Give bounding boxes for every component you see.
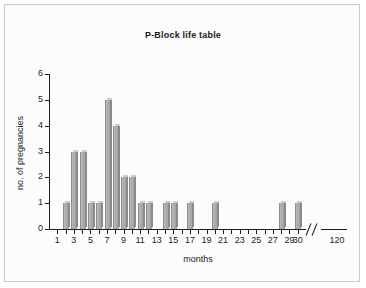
x-tick (66, 230, 67, 234)
y-tick-label: 3 (30, 146, 43, 156)
bar-top (148, 201, 153, 203)
x-tick-label: 3 (71, 235, 76, 245)
bar-top (123, 175, 128, 177)
bar-top (90, 201, 95, 203)
bar-top (98, 201, 103, 203)
bar-side (110, 98, 112, 227)
x-tick-label: 17 (185, 235, 195, 245)
y-tick (45, 100, 49, 101)
x-tick (281, 230, 282, 234)
bar (71, 152, 76, 230)
y-axis-label: no. of pregnancies (15, 116, 25, 190)
bar (279, 203, 284, 229)
bar-top (73, 150, 78, 152)
x-tick (157, 230, 158, 234)
x-tick (298, 230, 299, 234)
y-tick (45, 177, 49, 178)
y-axis-line (49, 74, 50, 230)
bar-side (143, 201, 145, 227)
bar-side (168, 201, 170, 227)
bar (129, 177, 134, 229)
bar-top (297, 201, 302, 203)
x-tick (148, 230, 149, 234)
bar (121, 177, 126, 229)
figure-frame: P-Block life table no. of pregnancies mo… (4, 4, 360, 282)
x-tick (198, 230, 199, 234)
x-tick (165, 230, 166, 234)
x-tick-label: 9 (121, 235, 126, 245)
x-tick (240, 230, 241, 234)
bar-side (126, 175, 128, 227)
bar-top (165, 201, 170, 203)
x-tick (132, 230, 133, 234)
y-tick-label: 4 (30, 120, 43, 130)
x-tick-label: 15 (168, 235, 178, 245)
bar (171, 203, 176, 229)
bar (113, 126, 118, 229)
bar (212, 203, 217, 229)
bar-side (85, 150, 87, 228)
y-tick (45, 152, 49, 153)
x-axis-label: months (49, 254, 347, 264)
y-tick (45, 229, 49, 230)
bar (80, 152, 85, 230)
x-tick (99, 230, 100, 234)
x-tick (124, 230, 125, 234)
chart-title: P-Block life table (5, 30, 361, 40)
bar (163, 203, 168, 229)
x-tick (115, 230, 116, 234)
bar (295, 203, 300, 229)
bar-top (82, 150, 87, 152)
bar-side (151, 201, 153, 227)
x-tick (74, 230, 75, 234)
bar-side (192, 201, 194, 227)
x-tick-label: 21 (218, 235, 228, 245)
bar-top (189, 201, 194, 203)
bar (96, 203, 101, 229)
x-tick-label: 25 (251, 235, 261, 245)
x-tick-label: 11 (136, 235, 145, 245)
x-tick (265, 230, 266, 234)
x-tick (273, 230, 274, 234)
x-tick (289, 230, 290, 234)
x-tick-label-120: 120 (329, 235, 344, 245)
x-tick (223, 230, 224, 234)
x-tick-label: 23 (235, 235, 245, 245)
bar-top (65, 201, 70, 203)
x-axis-line-main (49, 229, 306, 230)
y-tick (45, 126, 49, 127)
x-tick-label: 7 (105, 235, 110, 245)
bar-top (107, 98, 112, 100)
bar-side (76, 150, 78, 228)
bar-side (68, 201, 70, 227)
bar (105, 100, 110, 229)
y-tick (45, 74, 49, 75)
x-tick-label: 13 (152, 235, 162, 245)
x-tick-label: 1 (55, 235, 60, 245)
y-tick (45, 203, 49, 204)
x-tick (248, 230, 249, 234)
bar-side (176, 201, 178, 227)
x-tick (182, 230, 183, 234)
bar-top (115, 124, 120, 126)
axis-break-slash (312, 223, 318, 235)
bar-top (140, 201, 145, 203)
x-tick (207, 230, 208, 234)
axis-break-slash (306, 223, 312, 235)
bar-side (284, 201, 286, 227)
x-tick (90, 230, 91, 234)
bar-side (118, 124, 120, 227)
x-tick (256, 230, 257, 234)
bar (138, 203, 143, 229)
x-tick (190, 230, 191, 234)
x-axis-line-break-segment (321, 229, 347, 230)
y-tick-label: 0 (30, 223, 43, 233)
y-tick-label: 5 (30, 94, 43, 104)
chart-figure: P-Block life table no. of pregnancies mo… (5, 5, 361, 283)
x-tick-label: 19 (202, 235, 212, 245)
y-tick-label: 1 (30, 197, 43, 207)
bar-top (281, 201, 286, 203)
bar (88, 203, 93, 229)
bar-top (173, 201, 178, 203)
bar-side (300, 201, 302, 227)
